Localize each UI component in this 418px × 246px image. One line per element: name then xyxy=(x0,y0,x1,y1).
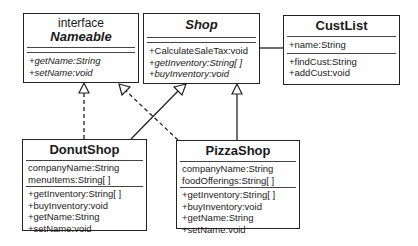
class-name: Nameable xyxy=(24,30,138,44)
class-name: CustList xyxy=(284,16,399,33)
attribute: companyName:String xyxy=(177,163,299,175)
attribute: companyName:String xyxy=(23,162,146,174)
class-nameable: interface Nameable +getName:String +setN… xyxy=(23,13,139,83)
class-pizzashop: PizzaShop companyName:String foodOfferin… xyxy=(176,140,300,229)
method: +CalculateSaleTax:void xyxy=(144,45,259,57)
method: +buyInventory:void xyxy=(23,200,146,212)
attribute: foodOfferings:String[ ] xyxy=(177,175,299,187)
class-name: Shop xyxy=(144,14,259,32)
hollow-triangle-arrowhead-icon xyxy=(119,84,130,95)
method: +getInventory:String[ ] xyxy=(177,189,299,201)
class-stereotype: interface xyxy=(24,14,138,30)
method: +buyInventory:void xyxy=(144,68,259,80)
method: +setName:void xyxy=(177,224,299,236)
hollow-triangle-arrowhead-icon xyxy=(79,83,89,93)
method: +getName:String xyxy=(24,55,138,67)
method: +getName:String xyxy=(23,211,146,223)
method: +setName:void xyxy=(24,67,138,79)
attribute: menuItems:String[ ] xyxy=(23,174,146,186)
class-custlist: CustList +name:String +findCust:String +… xyxy=(283,15,400,85)
generalization-line xyxy=(131,91,178,139)
class-donutshop: DonutShop companyName:String menuItems:S… xyxy=(22,139,147,231)
method: +buyInventory:void xyxy=(177,201,299,213)
method: +getInventory:String[ ] xyxy=(144,57,259,69)
method: +getInventory:String[ ] xyxy=(23,188,146,200)
method: +setName:void xyxy=(23,223,146,235)
class-name: PizzaShop xyxy=(177,141,299,158)
attribute: +name:String xyxy=(284,39,399,51)
method: +findCust:String xyxy=(284,56,399,68)
class-shop: Shop +CalculateSaleTax:void +getInventor… xyxy=(143,13,260,84)
hollow-triangle-arrowhead-icon xyxy=(232,84,242,94)
method: +addCust:void xyxy=(284,67,399,79)
class-name: DonutShop xyxy=(23,140,146,157)
method: +getName:String xyxy=(177,212,299,224)
